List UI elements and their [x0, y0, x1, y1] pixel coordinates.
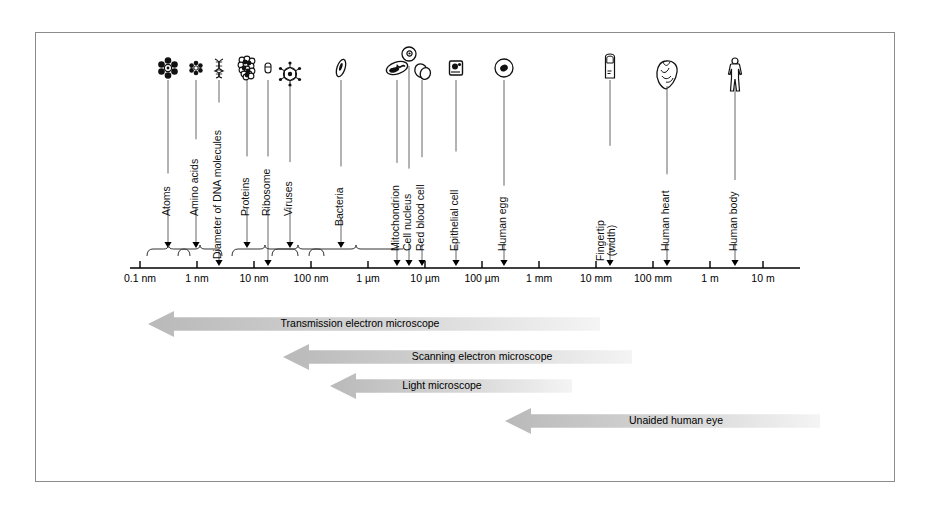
- instrument-range-label: Unaided human eye: [556, 414, 796, 426]
- figure-stage: 0.1 nm1 nm10 nm100 nm1 µm10 µm100 µm1 mm…: [0, 0, 930, 512]
- instrument-range-label: Light microscope: [322, 379, 562, 391]
- instrument-range-label: Transmission electron microscope: [240, 317, 480, 329]
- instrument-range-layer: [0, 0, 930, 512]
- instrument-range-label: Scanning electron microscope: [362, 350, 602, 362]
